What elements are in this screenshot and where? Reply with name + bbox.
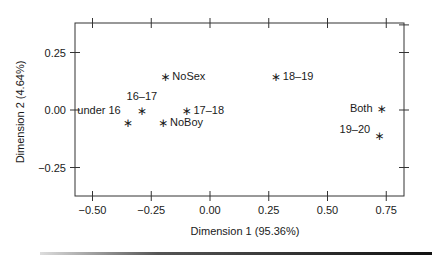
point-label: 16–17	[127, 90, 158, 102]
y-tick-label: −0.25	[38, 162, 66, 174]
y-tick-label: 0.25	[45, 47, 66, 59]
x-tick-label: 0.00	[199, 204, 220, 216]
asterisk-marker-icon: ∗	[158, 116, 168, 130]
scatter-chart: −0.50−0.250.000.250.500.75 0.250.00−0.25…	[0, 0, 432, 257]
data-point: ∗17–18	[181, 104, 224, 118]
point-label: 17–18	[194, 104, 225, 116]
asterisk-marker-icon: ∗	[181, 104, 191, 118]
point-label: 18–19	[283, 70, 314, 82]
asterisk-marker-icon: ∗	[271, 70, 281, 84]
x-tick-label: −0.25	[137, 204, 165, 216]
asterisk-marker-icon: ∗	[377, 102, 387, 116]
x-tick-label: −0.50	[79, 204, 107, 216]
point-label: 19–20	[340, 123, 371, 135]
data-point: ∗Both	[350, 102, 387, 116]
point-label: Both	[350, 102, 373, 114]
x-tick-label: 0.25	[258, 204, 279, 216]
data-point: ∗NoSex	[160, 70, 206, 84]
asterisk-marker-icon: ∗	[160, 70, 170, 84]
y-axis-ticks: 0.250.00−0.25	[38, 25, 409, 174]
x-tick-label: 0.50	[317, 204, 338, 216]
x-tick-label: 0.75	[376, 204, 397, 216]
data-point: ∗18–19	[271, 70, 314, 84]
asterisk-marker-icon: ∗	[137, 104, 147, 118]
asterisk-marker-icon: ∗	[123, 116, 133, 130]
data-points: ∗NoSex∗16–17∗under 16∗NoBoy∗17–18∗18–19∗…	[77, 70, 386, 144]
y-axis-title: Dimension 2 (4.64%)	[14, 61, 26, 164]
asterisk-marker-icon: ∗	[374, 129, 384, 143]
data-point: ∗16–17	[127, 90, 158, 118]
data-point: ∗under 16	[77, 104, 132, 130]
point-label: under 16	[77, 104, 120, 116]
page-bottom-rule	[40, 252, 432, 255]
data-point: ∗19–20	[340, 123, 385, 143]
point-label: NoSex	[172, 70, 206, 82]
y-tick-label: 0.00	[45, 104, 66, 116]
x-axis-title: Dimension 1 (95.36%)	[191, 225, 300, 237]
